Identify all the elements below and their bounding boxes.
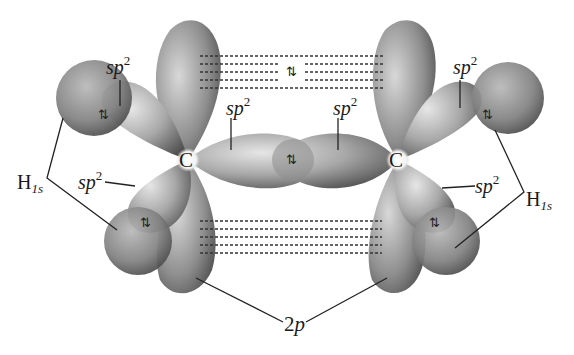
label-sp2-center-right: sp2 xyxy=(333,98,357,118)
orbital-diagram: sp2 sp2 sp2 sp2 sp2 sp2 C C H1s H1s 2p ⇅… xyxy=(0,0,574,355)
pi-overlap-bottom xyxy=(200,221,382,253)
label-h1s-left: H1s xyxy=(17,172,43,192)
electron-pair-icon: ⇅ xyxy=(286,152,294,167)
electron-pair-icon: ⇅ xyxy=(98,107,106,122)
label-sp2-lower-right: sp2 xyxy=(475,176,499,196)
electron-pair-icon: ⇅ xyxy=(140,215,148,230)
label-sp2-top-right: sp2 xyxy=(453,57,477,77)
electron-pair-icon: ⇅ xyxy=(482,107,490,122)
electron-pair-icon: ⇅ xyxy=(429,215,437,230)
label-sp2-center-left: sp2 xyxy=(226,98,250,118)
label-sp2-lower-left: sp2 xyxy=(78,172,102,192)
label-carbon-left: C xyxy=(179,150,193,171)
label-2p: 2p xyxy=(284,314,305,335)
label-carbon-right: C xyxy=(389,150,403,171)
electron-pair-icon: ⇅ xyxy=(286,64,294,79)
label-sp2-top-left: sp2 xyxy=(106,57,130,77)
label-h1s-right: H1s xyxy=(526,189,552,209)
